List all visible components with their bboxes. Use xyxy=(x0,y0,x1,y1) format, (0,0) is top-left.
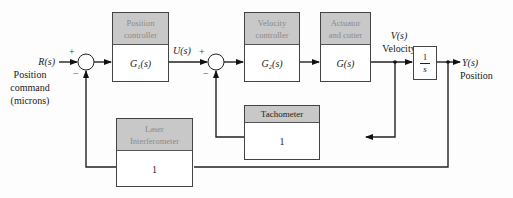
output-desc: Position xyxy=(460,69,510,82)
input-desc-line-2: command xyxy=(2,81,58,94)
title-line: controller xyxy=(255,29,288,41)
title-line: Actuator xyxy=(331,17,361,29)
title-line: Interferometer xyxy=(130,135,179,147)
tachometer-tf: 1 xyxy=(245,123,319,160)
position-controller-block: Position controller G₁(s) xyxy=(112,12,169,82)
actuator-block: Actuator and cutter G(s) xyxy=(320,12,371,82)
velocity-signal: V(s) xyxy=(377,29,421,42)
title-line: Velocity xyxy=(258,17,286,29)
integrator-denominator: s xyxy=(423,64,427,75)
sum2-plus-sign: + xyxy=(199,46,205,57)
sum1-minus-sign: − xyxy=(73,68,79,79)
block-diagram: R(s) Position command (microns) + − Posi… xyxy=(0,0,513,198)
sum1-plus-sign: + xyxy=(69,46,75,57)
output-label: Y(s) Position xyxy=(460,56,510,82)
laser-interferometer-tf: 1 xyxy=(117,151,192,187)
velocity-controller-block: Velocity controller G₂(s) xyxy=(244,12,300,82)
u-signal-label: U(s) xyxy=(173,44,191,57)
title-line: and cutter xyxy=(329,29,363,41)
position-controller-tf: G₁(s) xyxy=(113,45,168,82)
sum2-minus-sign: − xyxy=(203,68,209,79)
title-line: Laser xyxy=(145,123,164,135)
title-line: controller xyxy=(124,29,157,41)
integrator-numerator: 1 xyxy=(423,52,428,63)
input-desc-line-3: (microns) xyxy=(2,94,58,107)
actuator-tf: G(s) xyxy=(321,45,370,82)
integrator-block: 1 s xyxy=(413,46,437,80)
title-line: Position xyxy=(127,17,155,29)
velocity-controller-tf: G₂(s) xyxy=(245,45,299,82)
input-desc-line-1: Position xyxy=(2,68,58,81)
input-label: R(s) Position command (microns) xyxy=(2,55,58,107)
laser-interferometer-block: Laser Interferometer 1 xyxy=(116,118,193,187)
input-signal: R(s) xyxy=(2,55,58,68)
position-controller-title: Position controller xyxy=(113,13,168,45)
laser-interferometer-title: Laser Interferometer xyxy=(117,119,192,151)
tachometer-title: Tachometer xyxy=(245,106,319,123)
tachometer-block: Tachometer 1 xyxy=(244,105,320,160)
output-signal: Y(s) xyxy=(460,56,510,69)
actuator-title: Actuator and cutter xyxy=(321,13,370,45)
velocity-controller-title: Velocity controller xyxy=(245,13,299,45)
